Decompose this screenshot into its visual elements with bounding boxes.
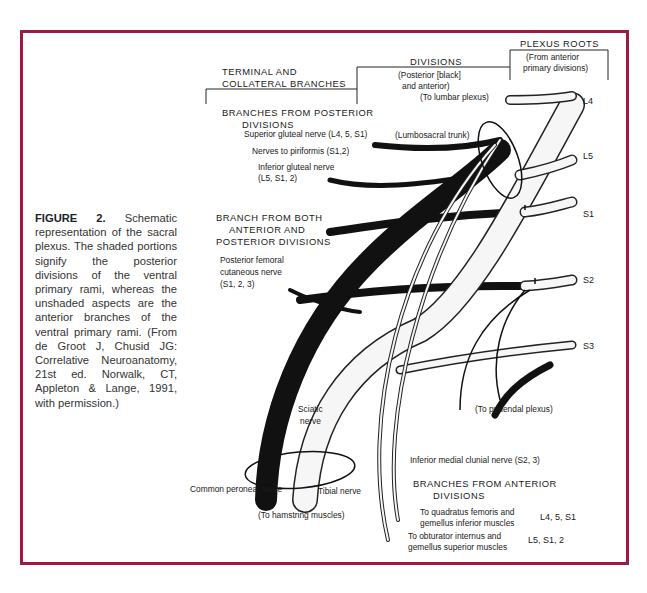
plexus-roots-header: PLEXUS ROOTS <box>520 38 599 50</box>
inferior-medial-clunial-label: Inferior medial clunial nerve (S2, 3) <box>410 455 540 466</box>
inferior-gluteal-label-1: Inferior gluteal nerve <box>258 162 334 173</box>
terminal-header-2: COLLATERAL BRANCHES <box>222 78 346 90</box>
lumbosacral-trunk-label: (Lumbosacral trunk) <box>395 130 469 141</box>
hamstring-label: (To hamstring muscles) <box>258 510 345 521</box>
root-s1: S1 <box>583 209 594 220</box>
obturator-roots: L5, S1, 2 <box>528 535 564 546</box>
sciatic-label-2: nerve <box>300 416 321 427</box>
both-divisions-header-3: POSTERIOR DIVISIONS <box>216 236 331 248</box>
root-s2: S2 <box>583 275 594 286</box>
sciatic-label-1: Sciatic <box>298 404 323 415</box>
anterior-divisions <box>305 96 572 540</box>
quadratus-roots: L4, 5, S1 <box>540 512 576 523</box>
plexus-roots-note-1: (From anterior <box>526 52 579 63</box>
obturator-label-2: gemellus superior muscles <box>408 542 507 553</box>
figure-caption: FIGURE 2. Schematic representation of th… <box>35 211 177 410</box>
to-pudendal-label: (To pudendal plexus) <box>475 404 553 415</box>
post-fem-cut-label-2: cutaneous nerve <box>220 267 282 278</box>
superior-gluteal-label: Superior gluteal nerve (L4, 5, S1) <box>244 129 367 140</box>
divisions-note-1: (Posterior [black] <box>398 70 461 81</box>
quadratus-label-2: gemellus inferior muscles <box>420 518 515 529</box>
common-peroneal-label: Common peroneal nerve <box>190 484 282 495</box>
post-fem-cut-label-3: (S1, 2, 3) <box>220 279 254 290</box>
plexus-roots-note-2: primary divisions) <box>523 63 588 74</box>
obturator-label-1: To obturator internus and <box>408 531 501 542</box>
post-fem-cut-label-1: Posterior femoral <box>220 255 284 266</box>
quadratus-label-1: To quadratus femoris and <box>420 507 515 518</box>
posterior-branches-header-1: BRANCHES FROM POSTERIOR <box>222 107 374 119</box>
caption-text: Schematic representation of the sacral p… <box>35 212 177 409</box>
divisions-header: DIVISIONS <box>410 56 462 68</box>
piriformis-label: Nerves to piriformis (S1,2) <box>252 146 349 157</box>
root-l4: L4 <box>583 96 593 107</box>
anterior-branches-header-2: DIVISIONS <box>433 490 485 502</box>
root-l5: L5 <box>583 151 593 162</box>
both-divisions-header-1: BRANCH FROM BOTH <box>216 212 322 224</box>
both-divisions-header-2: ANTERIOR AND <box>229 224 305 236</box>
root-s3: S3 <box>583 341 594 352</box>
divisions-note-2: and anterior) <box>402 81 450 92</box>
terminal-header-1: TERMINAL AND <box>222 66 297 78</box>
inferior-gluteal-label-2: (L5, S1, 2) <box>258 173 297 184</box>
anterior-branches-header-1: BRANCHES FROM ANTERIOR <box>413 478 557 490</box>
to-lumbar-plexus-label: (To lumbar plexus) <box>420 92 489 103</box>
tibial-label: Tibial nerve <box>318 486 361 497</box>
caption-label: FIGURE 2. <box>35 212 106 224</box>
